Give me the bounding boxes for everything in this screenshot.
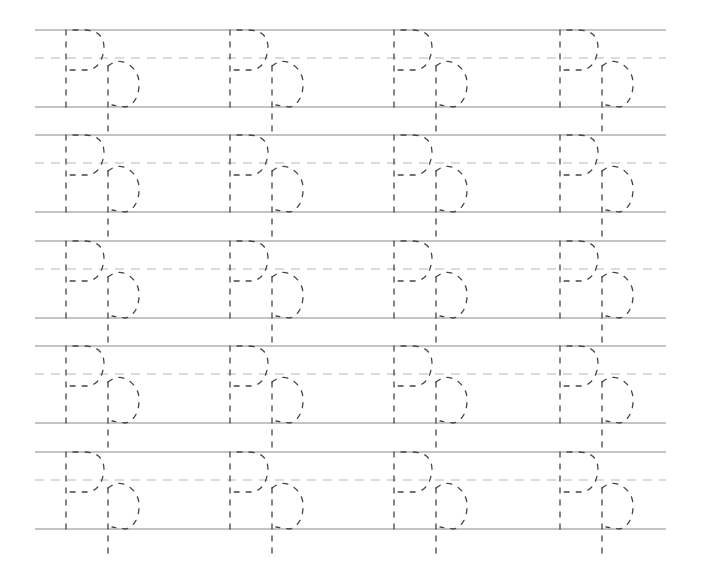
lowercase-p-bowl-trace xyxy=(602,377,633,423)
uppercase-p-trace xyxy=(560,135,598,212)
uppercase-p-trace xyxy=(560,452,598,529)
lowercase-p-bowl-trace xyxy=(108,166,139,212)
uppercase-p-trace xyxy=(230,30,268,107)
lowercase-p-bowl-trace xyxy=(108,61,139,107)
uppercase-p-trace xyxy=(394,452,432,529)
lowercase-p-bowl-trace xyxy=(436,61,467,107)
lowercase-p-bowl-trace xyxy=(272,483,303,529)
lowercase-p-bowl-trace xyxy=(108,377,139,423)
lowercase-p-bowl-trace xyxy=(436,377,467,423)
lowercase-p-bowl-trace xyxy=(272,166,303,212)
uppercase-p-trace xyxy=(230,135,268,212)
uppercase-p-trace xyxy=(66,241,104,318)
uppercase-p-trace xyxy=(66,346,104,423)
uppercase-p-trace xyxy=(560,241,598,318)
uppercase-p-trace xyxy=(66,135,104,212)
uppercase-p-trace xyxy=(560,346,598,423)
lowercase-p-bowl-trace xyxy=(602,272,633,318)
uppercase-p-trace xyxy=(230,346,268,423)
lowercase-p-bowl-trace xyxy=(436,483,467,529)
uppercase-p-trace xyxy=(560,30,598,107)
lowercase-p-bowl-trace xyxy=(272,272,303,318)
lowercase-p-bowl-trace xyxy=(436,166,467,212)
uppercase-p-trace xyxy=(66,452,104,529)
lowercase-p-bowl-trace xyxy=(602,166,633,212)
uppercase-p-trace xyxy=(394,346,432,423)
lowercase-p-bowl-trace xyxy=(272,377,303,423)
lowercase-p-bowl-trace xyxy=(272,61,303,107)
lowercase-p-bowl-trace xyxy=(436,272,467,318)
uppercase-p-trace xyxy=(394,135,432,212)
handwriting-worksheet xyxy=(0,0,701,582)
uppercase-p-trace xyxy=(230,241,268,318)
lowercase-p-bowl-trace xyxy=(108,483,139,529)
uppercase-p-trace xyxy=(230,452,268,529)
uppercase-p-trace xyxy=(66,30,104,107)
uppercase-p-trace xyxy=(394,30,432,107)
worksheet-canvas xyxy=(0,0,701,582)
lowercase-p-bowl-trace xyxy=(602,61,633,107)
lowercase-p-bowl-trace xyxy=(108,272,139,318)
lowercase-p-bowl-trace xyxy=(602,483,633,529)
uppercase-p-trace xyxy=(394,241,432,318)
